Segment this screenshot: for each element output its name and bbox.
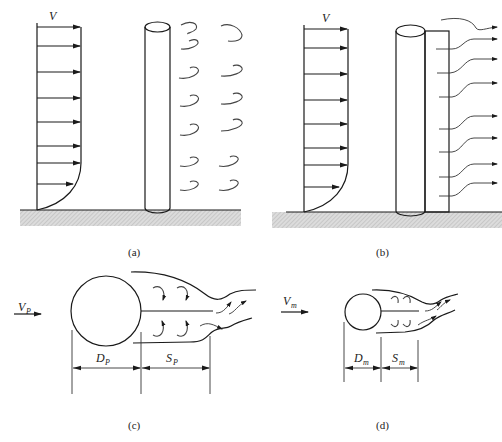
ground-hatch: [20, 210, 241, 226]
spacing-label-d: S m: [392, 351, 405, 367]
velocity-profile: [304, 25, 348, 212]
panel-c: V P D P S: [14, 272, 256, 432]
diameter-label-c: D P: [95, 351, 110, 367]
svg-text:S: S: [392, 351, 398, 365]
panel-a: V (a): [20, 9, 242, 259]
approach-velocity-d: V m: [281, 294, 308, 312]
svg-text:m: m: [363, 358, 369, 367]
wake-c: [131, 272, 256, 343]
ground-hatch: [272, 212, 502, 228]
pier-cylinder-b: [396, 25, 425, 216]
caption-a: (a): [128, 246, 141, 259]
svg-text:D: D: [95, 351, 105, 365]
shed-vortices: [179, 22, 242, 190]
streamlines: [436, 18, 497, 196]
figure-canvas: V (a): [0, 0, 502, 442]
caption-d: (d): [376, 419, 389, 432]
caption-b: (b): [376, 246, 389, 259]
svg-text:P: P: [25, 307, 31, 316]
velocity-label-b: V: [322, 11, 331, 25]
svg-text:D: D: [353, 351, 363, 365]
wake-d: [372, 290, 458, 333]
velocity-label-a: V: [49, 9, 58, 23]
velocity-profile: [37, 23, 81, 210]
splitter-plate: [425, 31, 449, 212]
panel-b: V (b): [272, 11, 502, 259]
pier-cylinder-a: [145, 22, 170, 213]
svg-text:S: S: [166, 351, 172, 365]
svg-text:m: m: [399, 358, 405, 367]
panel-d: V m D m S: [281, 290, 458, 432]
spacing-label-c: S P: [166, 351, 178, 367]
svg-text:P: P: [104, 358, 110, 367]
approach-velocity-c: V P: [14, 300, 41, 316]
diameter-label-d: D m: [353, 351, 369, 367]
caption-c: (c): [128, 419, 141, 432]
prototype-cylinder: [71, 276, 141, 346]
svg-text:P: P: [172, 358, 178, 367]
model-cylinder: [345, 294, 381, 330]
dimension-lines-c: [72, 330, 210, 394]
svg-text:m: m: [291, 301, 297, 310]
